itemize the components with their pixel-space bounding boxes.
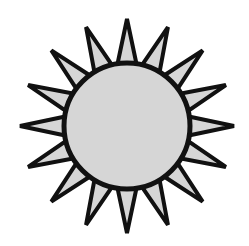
sun-icon (0, 0, 249, 246)
sun-disc (64, 63, 190, 189)
sun-illustration (0, 0, 249, 246)
